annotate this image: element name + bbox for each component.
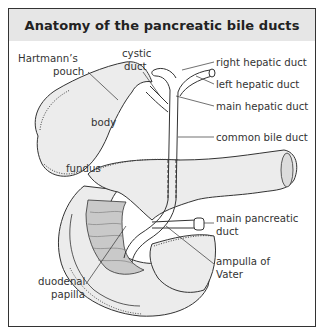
- label-duodenal-papilla: duodenal: [38, 276, 85, 287]
- label-hartmanns-pouch-2: pouch: [53, 66, 84, 77]
- label-ampulla-of-vater: ampulla of: [216, 256, 270, 267]
- label-cystic-duct-2: duct: [124, 61, 147, 72]
- label-main-pancreatic-duct-2: duct: [216, 226, 239, 237]
- label-common-bile-duct: common bile duct: [216, 132, 308, 143]
- label-hartmanns-pouch: Hartmann’s: [18, 53, 78, 64]
- label-right-hepatic-duct: right hepatic duct: [216, 57, 307, 68]
- label-fundus: fundus: [66, 163, 101, 174]
- label-body: body: [91, 117, 116, 128]
- label-main-pancreatic-duct: main pancreatic: [216, 213, 298, 224]
- anatomy-diagram: Hartmann’s pouch cystic duct body fundus…: [0, 0, 326, 334]
- label-cystic-duct: cystic: [122, 48, 151, 59]
- label-main-hepatic-duct: main hepatic duct: [216, 101, 308, 112]
- label-ampulla-of-vater-2: Vater: [216, 269, 244, 280]
- label-duodenal-papilla-2: papilla: [51, 289, 85, 300]
- label-left-hepatic-duct: left hepatic duct: [216, 79, 299, 90]
